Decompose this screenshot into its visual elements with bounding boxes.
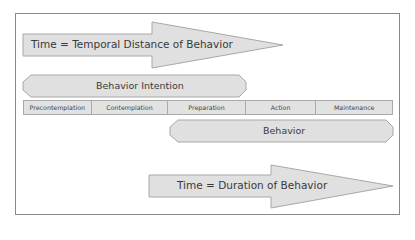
intention-bar-label: Behavior Intention	[96, 80, 184, 91]
stage-contemplation: Contemplation	[92, 101, 169, 114]
stage-action: Action	[246, 101, 317, 114]
stage-maintenance: Maintenance	[316, 101, 392, 114]
stage-precontemplation: Precontemplation	[24, 101, 92, 114]
stage-preparation: Preparation	[168, 101, 246, 114]
stages-row: Precontemplation Contemplation Preparati…	[23, 100, 393, 115]
behavior-bar-label: Behavior	[263, 125, 305, 136]
bottom-arrow-label: Time = Duration of Behavior	[177, 179, 327, 191]
top-arrow-label: Time = Temporal Distance of Behavior	[31, 38, 233, 50]
